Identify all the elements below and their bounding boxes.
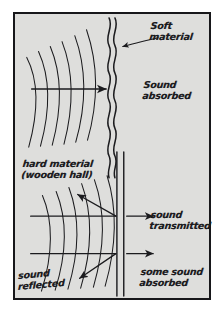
diagram-frame	[13, 12, 211, 300]
hard-material-barrier	[117, 152, 124, 296]
diagram-artwork	[15, 14, 209, 298]
label-hard-material: hard material (wooden hall)	[21, 159, 94, 180]
label-sound-transmitted: sound transmitted	[149, 210, 213, 231]
diagram-page: Soft material Sound absorbed hard materi…	[0, 0, 224, 313]
label-some-sound-absorbed: some sound absorbed	[139, 267, 204, 288]
label-soft-material: Soft material	[149, 21, 195, 42]
label-sound-absorbed: Sound absorbed	[142, 80, 193, 101]
label-sound-reflected: sound reflected	[18, 267, 65, 292]
reflected-ray-upper	[78, 194, 116, 216]
soft-material-barrier	[108, 18, 117, 178]
